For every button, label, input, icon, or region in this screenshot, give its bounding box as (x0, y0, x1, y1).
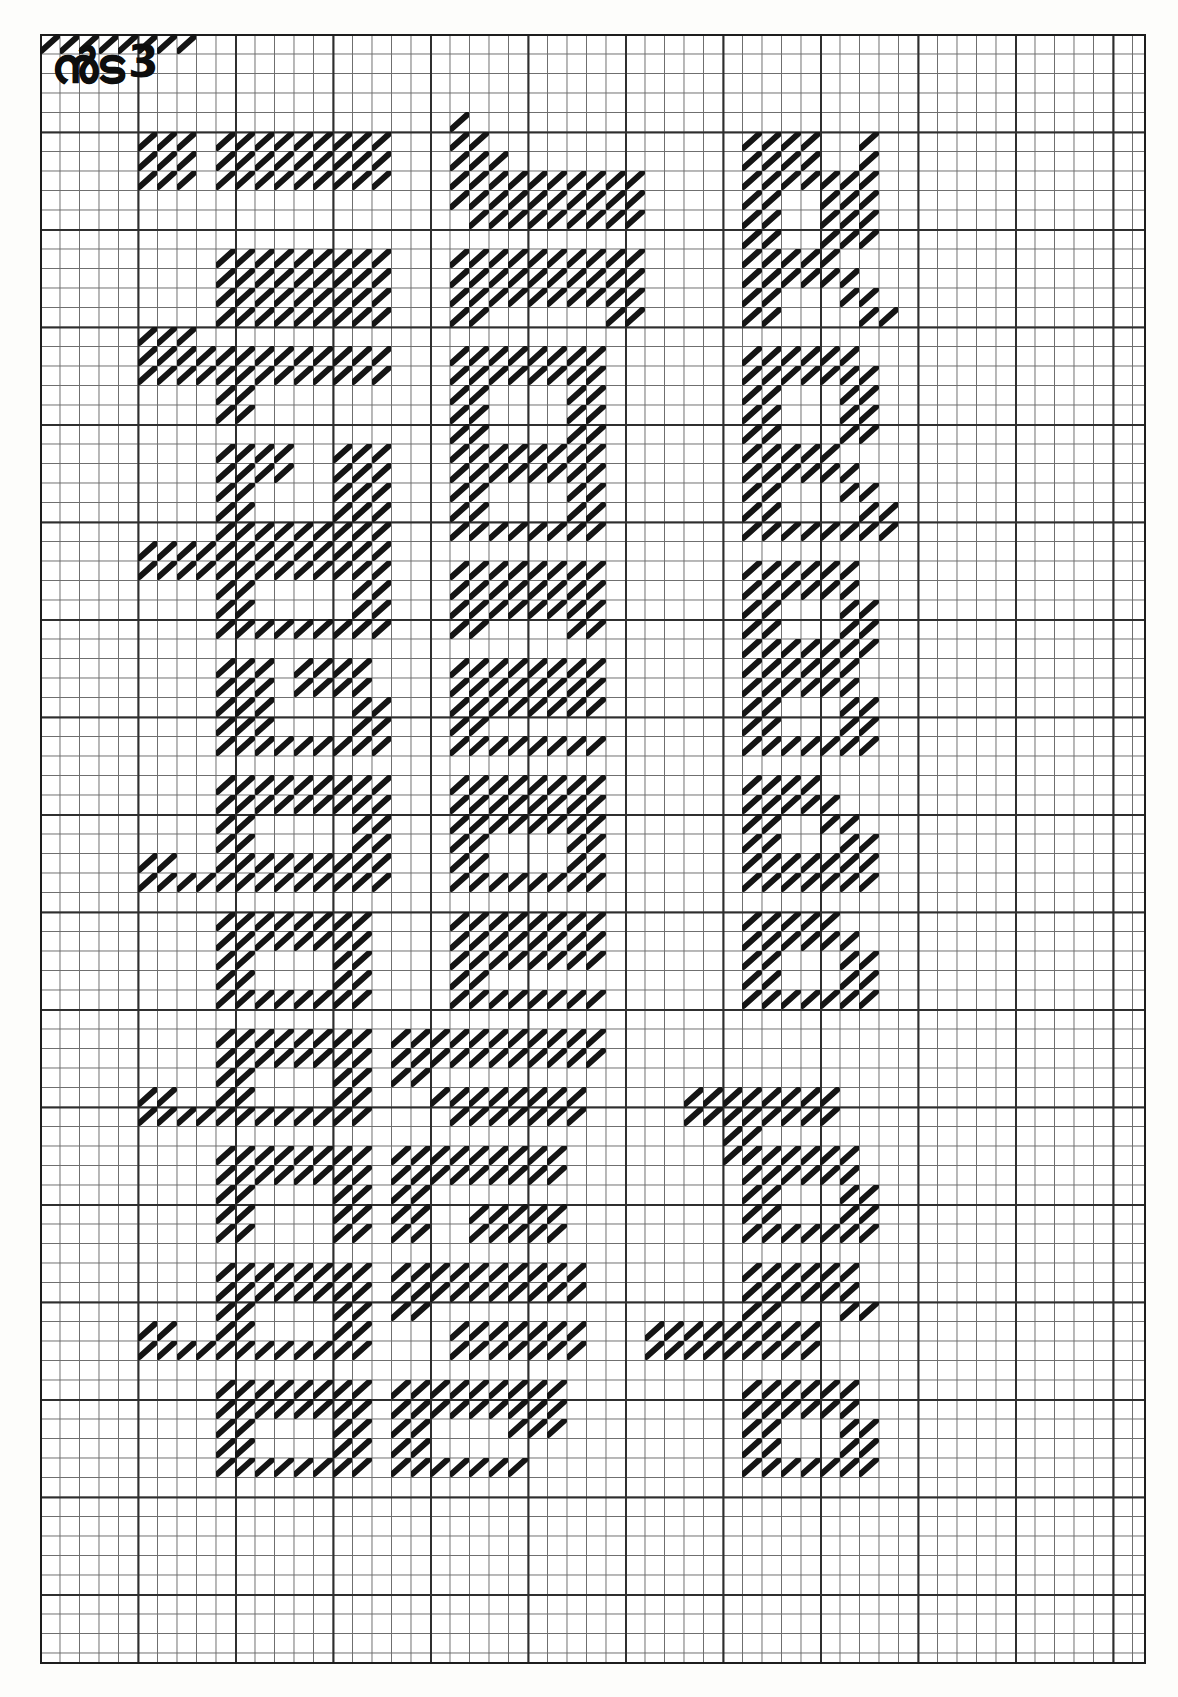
stitch-cell (801, 151, 821, 171)
stitch-cell (274, 444, 294, 464)
stitch-cell (840, 1380, 860, 1400)
stitch-cell (859, 697, 879, 717)
stitch-cell (859, 366, 879, 386)
stitch-cell (372, 873, 392, 893)
stitch-cell (781, 1224, 801, 1244)
stitch-cell (391, 1146, 411, 1166)
stitch-cell (781, 171, 801, 191)
stitch-cell (508, 1107, 528, 1127)
stitch-cell (547, 1048, 567, 1068)
stitch-cell (547, 931, 567, 951)
stitch-cell (196, 346, 216, 366)
stitch-cell (567, 736, 587, 756)
stitch-cell (255, 1399, 275, 1419)
stitch-cell (216, 483, 236, 503)
stitch-cell (469, 1107, 489, 1127)
stitch-cell (567, 912, 587, 932)
stitch-cell (781, 990, 801, 1010)
stitch-cell (411, 1302, 431, 1322)
stitch-cell (469, 1321, 489, 1341)
stitch-cell (606, 171, 626, 191)
stitch-cell (352, 1087, 372, 1107)
stitch-cell (684, 1341, 704, 1361)
stitch-cell (508, 522, 528, 542)
stitch-cell (333, 1165, 353, 1185)
stitch-cell (489, 1204, 509, 1224)
stitch-cell (820, 1458, 840, 1478)
stitch-cell (469, 444, 489, 464)
stitch-cell (781, 268, 801, 288)
stitch-cell (450, 405, 470, 425)
stitch-cell (567, 483, 587, 503)
stitch-cell (508, 1380, 528, 1400)
stitch-cell (742, 990, 762, 1010)
stitch-cell (859, 229, 879, 249)
stitch-cell (820, 268, 840, 288)
stitch-cell (567, 1087, 587, 1107)
stitch-cell (801, 580, 821, 600)
stitch-cell (294, 853, 314, 873)
stitch-cell (528, 580, 548, 600)
stitch-cell (508, 268, 528, 288)
stitch-cell (742, 1165, 762, 1185)
stitch-cell (274, 795, 294, 815)
stitch-cell (781, 873, 801, 893)
stitch-cell (820, 1087, 840, 1107)
stitch-cell (489, 1263, 509, 1283)
stitch-cell (586, 444, 606, 464)
stitch-cell (255, 1263, 275, 1283)
stitch-cell (781, 678, 801, 698)
stitch-cell (567, 1321, 587, 1341)
stitch-cell (274, 912, 294, 932)
stitch-cell (742, 249, 762, 269)
stitch-cell (547, 912, 567, 932)
stitch-cell (313, 268, 333, 288)
stitch-cell (391, 1263, 411, 1283)
stitch-cell (489, 1380, 509, 1400)
stitch-cell (781, 151, 801, 171)
stitch-cell (801, 1107, 821, 1127)
stitch-cell (235, 502, 255, 522)
stitch-cell (547, 1263, 567, 1283)
stitch-cell (450, 385, 470, 405)
stitch-cell (157, 853, 177, 873)
stitch-cell (547, 600, 567, 620)
stitch-cell (742, 1419, 762, 1439)
stitch-cell (313, 931, 333, 951)
stitch-cell (742, 1458, 762, 1478)
stitch-cell (255, 171, 275, 191)
stitch-cell (840, 736, 860, 756)
stitch-cell (840, 229, 860, 249)
stitch-cell (781, 522, 801, 542)
stitch-cell (450, 307, 470, 327)
stitch-cell (840, 522, 860, 542)
stitch-cell (352, 658, 372, 678)
stitch-cell (391, 1185, 411, 1205)
stitch-cell (216, 658, 236, 678)
stitch-cell (235, 600, 255, 620)
stitch-cell (469, 483, 489, 503)
stitch-cell (567, 600, 587, 620)
stitch-cell (781, 249, 801, 269)
stitch-cell (762, 1321, 782, 1341)
stitch-cell (859, 210, 879, 230)
stitch-cell (840, 1438, 860, 1458)
stitch-cell (352, 171, 372, 191)
stitch-cell (586, 502, 606, 522)
stitch-cell (840, 366, 860, 386)
stitch-cell (313, 1107, 333, 1127)
stitch-cell (450, 834, 470, 854)
stitch-cell (762, 619, 782, 639)
stitch-cell (235, 1146, 255, 1166)
stitch-cell (216, 463, 236, 483)
stitch-cell (274, 1146, 294, 1166)
stitch-cell (391, 1399, 411, 1419)
stitch-cell (450, 1341, 470, 1361)
stitch-cell (547, 951, 567, 971)
stitch-cell (450, 268, 470, 288)
stitch-cell (840, 268, 860, 288)
stitch-cell (859, 736, 879, 756)
stitch-cell (781, 561, 801, 581)
stitch-cell (762, 736, 782, 756)
stitch-cell (333, 1282, 353, 1302)
